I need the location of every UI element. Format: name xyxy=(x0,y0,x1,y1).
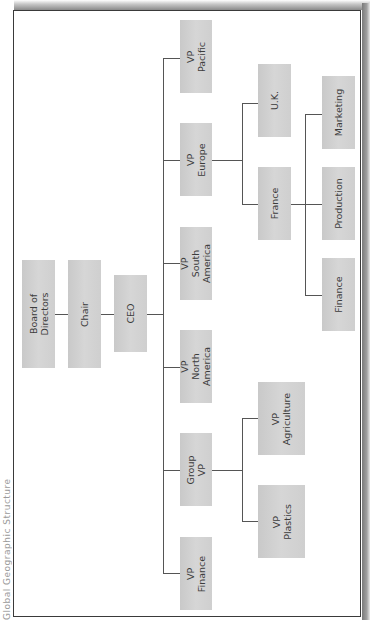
connector-vp-finance xyxy=(163,573,180,574)
frame-shadow-top xyxy=(14,0,370,10)
connector-europe-bus xyxy=(242,103,243,204)
connector-group-vp-bus xyxy=(242,418,243,522)
connector-plastics xyxy=(242,521,258,522)
box-label: Group VP xyxy=(185,454,207,486)
box-label: VP South America xyxy=(180,244,213,283)
box-label: VP Pacific xyxy=(185,41,207,71)
box-label: Finance xyxy=(333,276,344,312)
box-marketing: Marketing xyxy=(322,76,355,149)
box-label: VP Plastics xyxy=(271,504,293,540)
box-label: VP Agriculture xyxy=(271,392,293,444)
box-vp-plastics: VP Plastics xyxy=(258,485,305,558)
box-vp-pacific: VP Pacific xyxy=(180,20,212,93)
connector-board-chair xyxy=(55,314,68,315)
box-label: France xyxy=(269,188,280,220)
frame-shadow-right xyxy=(362,3,370,620)
connector-vp-north-america xyxy=(163,367,180,368)
box-vp-finance: VP Finance xyxy=(180,537,212,610)
connector-france xyxy=(242,204,258,205)
box-board-of-directors: Board of Directors xyxy=(22,260,55,368)
connector-vp-europe xyxy=(163,160,180,161)
box-label: Production xyxy=(333,178,344,229)
connector-group-vp-stem xyxy=(212,470,242,471)
box-vp-agriculture: VP Agriculture xyxy=(258,382,305,455)
box-production: Production xyxy=(322,167,355,240)
box-label: VP Europe xyxy=(185,143,207,176)
connector-uk xyxy=(242,103,258,104)
connector-france-bus xyxy=(305,114,306,296)
connector-finance-france xyxy=(305,295,322,296)
box-label: Marketing xyxy=(333,89,344,136)
connector-agriculture xyxy=(242,418,258,419)
box-vp-north-america: VP North America xyxy=(180,330,212,403)
box-label: VP Finance xyxy=(185,555,207,591)
box-uk: U.K. xyxy=(258,64,291,137)
connector-europe-stem xyxy=(212,160,242,161)
connector-ceo-trunk xyxy=(147,314,163,315)
box-label: VP North America xyxy=(180,347,213,386)
connector-vp-trunk xyxy=(163,58,164,574)
figure-caption: Global Geographic Structure xyxy=(2,410,12,620)
connector-vp-pacific xyxy=(163,58,180,59)
connector-france-stem xyxy=(291,204,322,205)
connector-marketing xyxy=(305,114,322,115)
box-ceo: CEO xyxy=(114,275,147,352)
box-finance-france: Finance xyxy=(322,258,355,331)
box-vp-south-america: VP South America xyxy=(180,227,212,300)
box-label: Chair xyxy=(79,301,90,326)
connector-chair-ceo xyxy=(101,314,114,315)
connector-vp-south-america xyxy=(163,263,180,264)
box-vp-europe: VP Europe xyxy=(180,123,212,196)
connector-group-vp xyxy=(163,470,180,471)
box-france: France xyxy=(258,167,291,240)
box-group-vp: Group VP xyxy=(180,433,212,506)
box-label: CEO xyxy=(125,303,136,323)
box-chair: Chair xyxy=(68,260,101,368)
box-label: U.K. xyxy=(269,91,280,110)
box-label: Board of Directors xyxy=(28,292,50,335)
